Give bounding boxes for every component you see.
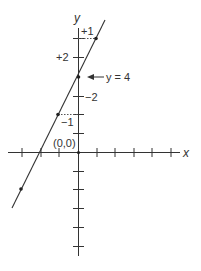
lower-rise-label: −2 bbox=[85, 91, 98, 103]
point-neg1-2 bbox=[56, 113, 60, 117]
point-0-4 bbox=[77, 75, 81, 79]
lower-run-label: −1 bbox=[61, 116, 74, 128]
y-intercept-annotation: y = 4 bbox=[106, 71, 130, 83]
origin-label: (0,0) bbox=[53, 137, 76, 149]
y-axis-label: y bbox=[73, 11, 81, 25]
left-arrow-icon bbox=[87, 74, 104, 80]
point-neg3-neg2 bbox=[19, 187, 23, 191]
point-1-6 bbox=[94, 37, 98, 41]
linear-graph: y x +1 +2 y = 4 −2 −1 (0,0) bbox=[0, 0, 201, 271]
upper-run-label: +1 bbox=[81, 25, 94, 37]
origin-point bbox=[77, 151, 80, 154]
x-axis bbox=[8, 148, 180, 157]
x-axis-label: x bbox=[182, 146, 190, 160]
upper-rise-label: +2 bbox=[56, 51, 69, 63]
